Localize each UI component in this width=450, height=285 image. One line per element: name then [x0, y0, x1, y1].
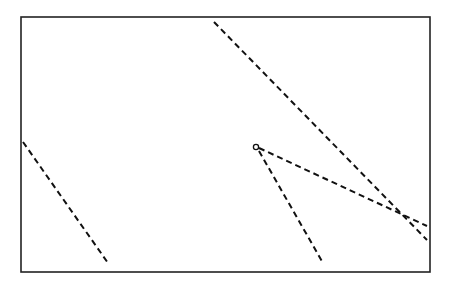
long-diagonal-line: [214, 22, 427, 240]
ray-to-bottom: [259, 151, 323, 263]
ray-to-right: [259, 148, 427, 226]
dashed-lines-group: [23, 22, 427, 263]
origin-point-marker: [253, 144, 258, 149]
left-line: [23, 142, 108, 263]
dashed-lines-diagram: [0, 0, 450, 285]
frame-border: [21, 17, 430, 272]
